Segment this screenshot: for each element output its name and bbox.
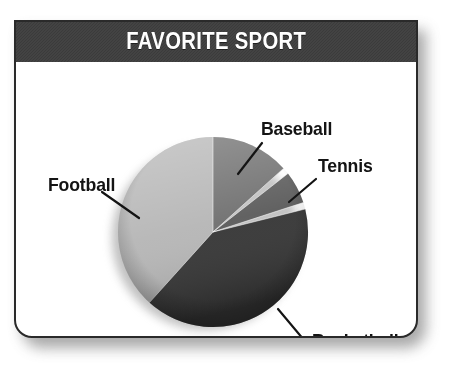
- pie-label-basketball: Basketball: [312, 330, 399, 338]
- label-leader-lines: [16, 62, 416, 336]
- pie-label-tennis: Tennis: [318, 155, 373, 177]
- leader-line-baseball: [238, 143, 262, 174]
- favorite-sport-chart-card: FAVORITE SPORT: [14, 20, 418, 338]
- leader-line-tennis: [289, 179, 316, 202]
- page-title: FAVORITE SPORT: [126, 28, 306, 55]
- pie-label-football: Football: [48, 174, 115, 196]
- chart-title-bar: FAVORITE SPORT: [14, 20, 418, 62]
- card-body: FAVORITE SPORT: [14, 20, 418, 338]
- leader-line-basketball: [278, 309, 309, 336]
- pie-label-baseball: Baseball: [261, 118, 332, 140]
- pie-chart-plot-area: Football Baseball Tennis Basketball: [16, 62, 416, 336]
